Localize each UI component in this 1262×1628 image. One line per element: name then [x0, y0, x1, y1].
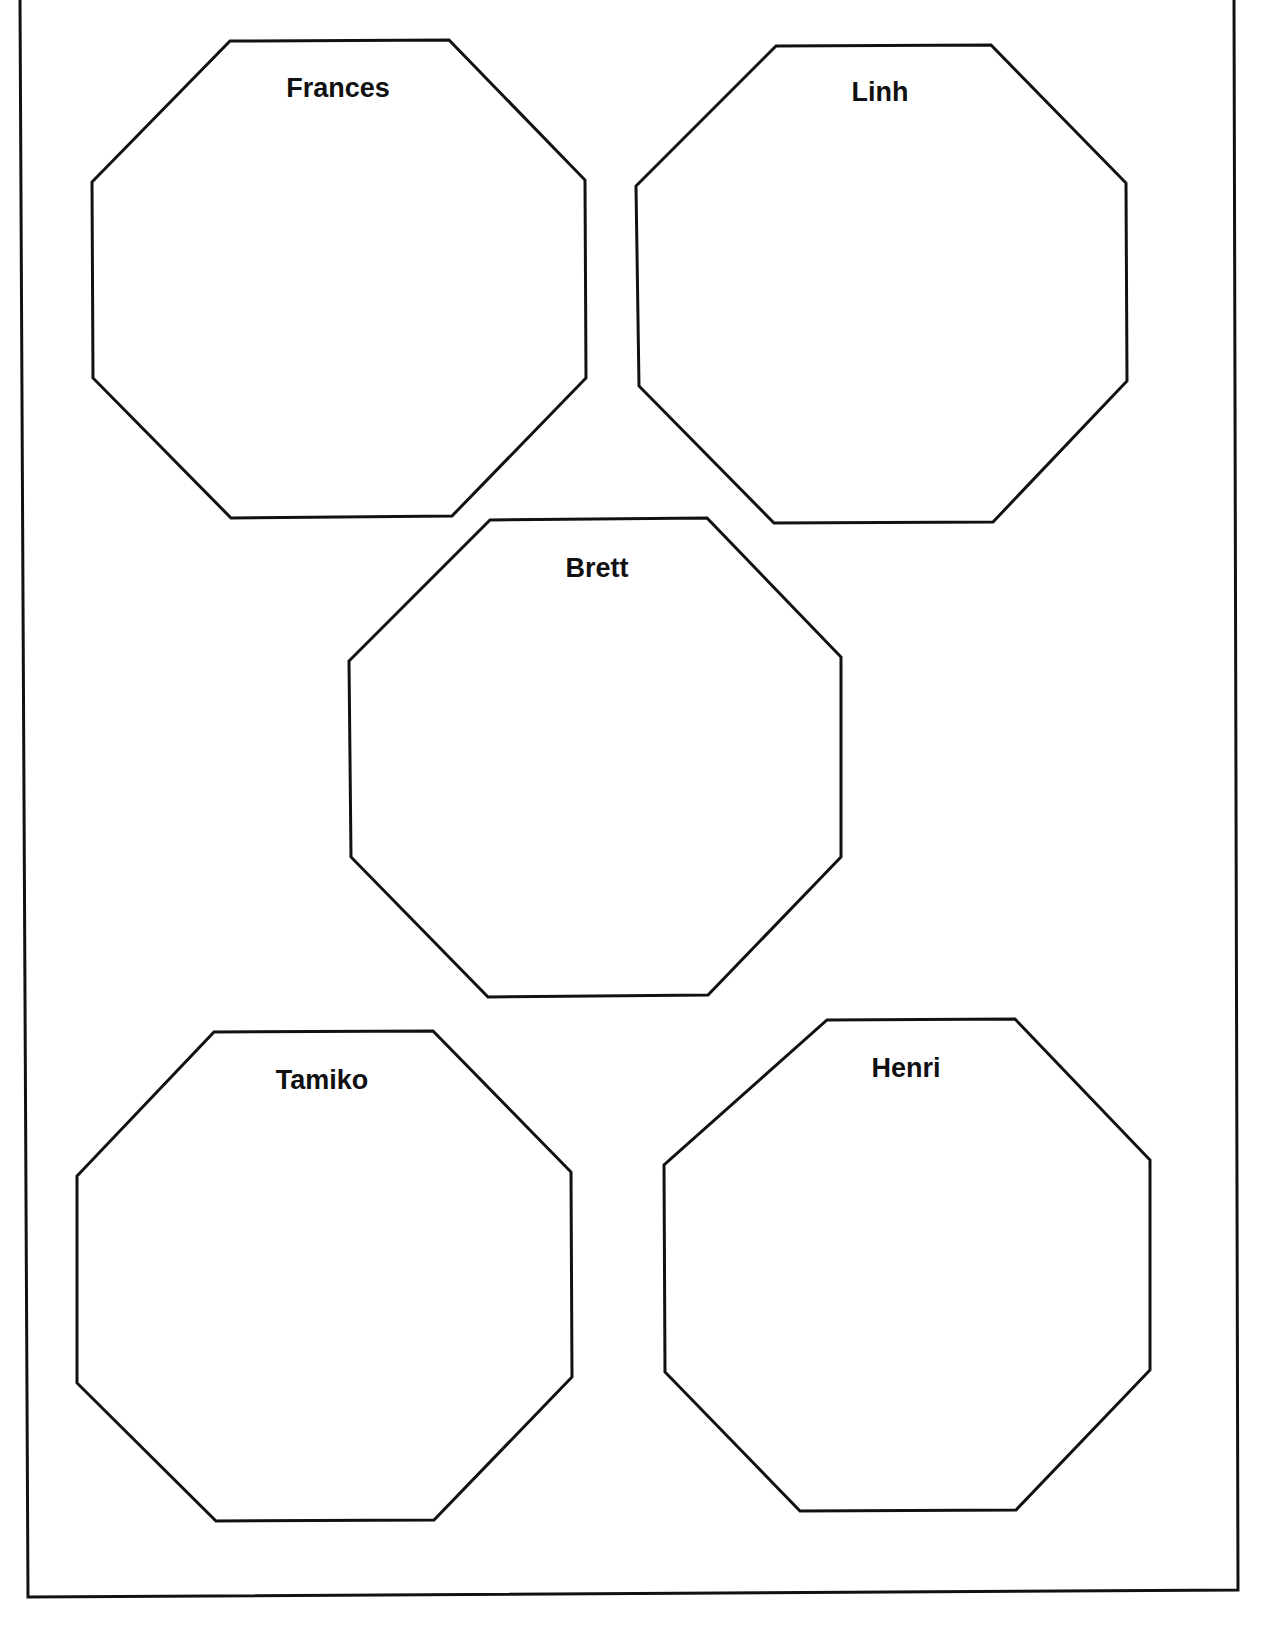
octagon-label-linh: Linh	[852, 79, 909, 106]
octagon-brett	[349, 518, 841, 997]
octagon-linh	[636, 45, 1127, 523]
octagon-tamiko	[77, 1031, 572, 1521]
octagon-label-tamiko: Tamiko	[276, 1067, 369, 1094]
worksheet-drawing	[0, 0, 1262, 1628]
octagon-label-frances: Frances	[286, 75, 390, 102]
octagon-label-brett: Brett	[565, 555, 628, 582]
octagon-henri	[664, 1019, 1150, 1511]
worksheet-page: Frances Linh Brett Tamiko Henri	[0, 0, 1262, 1628]
octagon-label-henri: Henri	[871, 1055, 940, 1082]
octagon-frances	[92, 40, 586, 518]
